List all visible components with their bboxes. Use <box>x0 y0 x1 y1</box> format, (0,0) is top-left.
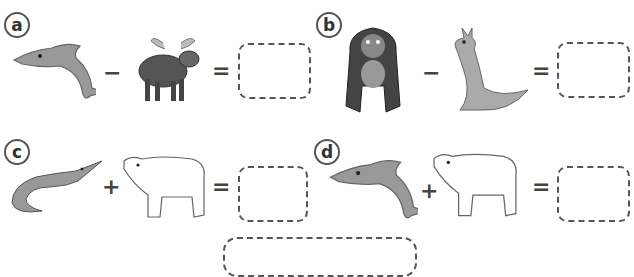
problem-label-b: b <box>316 12 342 38</box>
polar-bear-icon <box>122 155 208 221</box>
crocodile-icon <box>6 157 104 217</box>
answer-box-a[interactable] <box>238 43 311 99</box>
equals-operator: = <box>212 60 230 82</box>
answer-box-c[interactable] <box>238 166 308 222</box>
dolphin-icon <box>328 156 418 222</box>
kangaroo-icon <box>450 28 530 114</box>
equals-operator: = <box>532 60 550 82</box>
label-text: a <box>11 15 22 35</box>
equals-operator: = <box>532 176 550 198</box>
equals-operator: = <box>212 176 230 198</box>
polar-bear-icon <box>432 151 520 221</box>
problem-label-a: a <box>4 12 30 38</box>
answer-box-b[interactable] <box>557 42 630 98</box>
label-text: b <box>323 15 335 35</box>
moose-icon <box>135 33 205 105</box>
answer-box-d[interactable] <box>557 166 630 222</box>
bottom-answer-box[interactable] <box>223 237 417 277</box>
dolphin-icon <box>12 40 96 102</box>
minus-operator: − <box>422 62 440 84</box>
minus-operator: − <box>103 62 121 84</box>
plus-operator: + <box>102 176 120 198</box>
gorilla-icon <box>340 22 406 114</box>
